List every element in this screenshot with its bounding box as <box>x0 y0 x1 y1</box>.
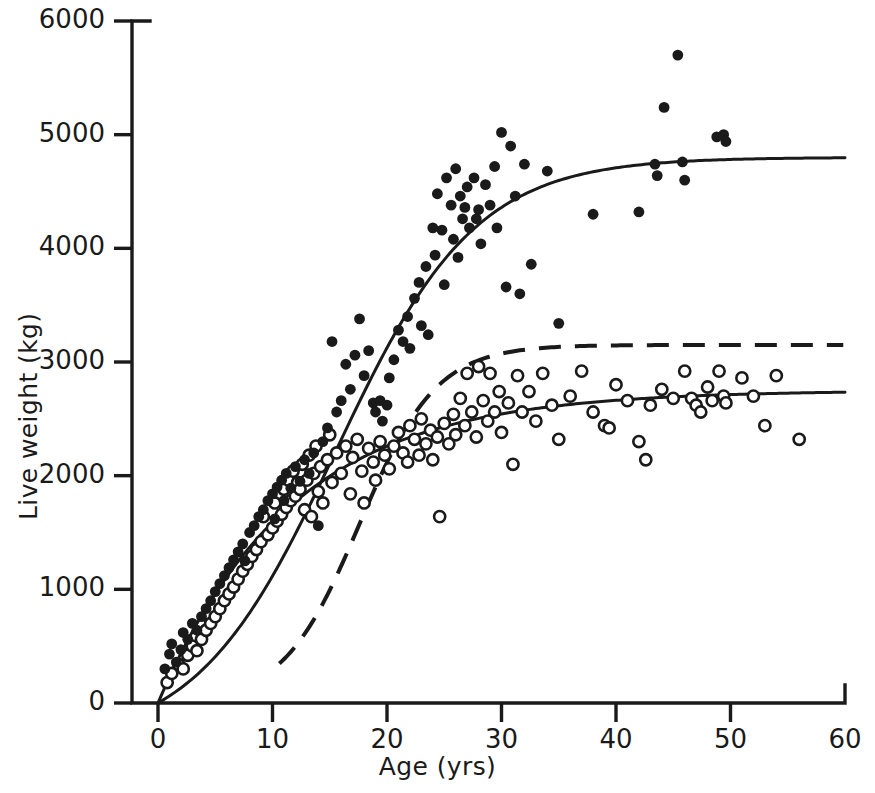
y-tick-label: 5000 <box>0 118 105 148</box>
data-point-male <box>462 182 473 193</box>
data-point-female <box>496 427 507 438</box>
data-point-male <box>437 225 448 236</box>
data-point-male <box>432 188 443 199</box>
data-point-female <box>413 450 424 461</box>
data-point-male <box>650 159 661 170</box>
data-point-female <box>427 454 438 465</box>
data-point-male <box>634 207 645 218</box>
x-tick-label: 40 <box>576 724 656 754</box>
data-point-female <box>588 406 599 417</box>
data-point-female <box>668 393 679 404</box>
data-point-female <box>404 420 415 431</box>
data-point-female <box>759 420 770 431</box>
data-point-female <box>478 395 489 406</box>
data-point-female <box>434 511 445 522</box>
data-point-female <box>393 427 404 438</box>
data-point-male <box>471 213 482 224</box>
y-tick-label: 3000 <box>0 345 105 375</box>
data-point-female <box>370 475 381 486</box>
data-point-female <box>679 365 690 376</box>
data-point-female <box>748 391 759 402</box>
data-point-female <box>604 422 615 433</box>
data-point-female <box>345 488 356 499</box>
data-point-male <box>542 166 553 177</box>
data-point-male <box>313 520 324 531</box>
data-point-male <box>489 161 500 172</box>
data-point-male <box>459 202 470 213</box>
data-point-female <box>553 434 564 445</box>
data-point-female <box>489 406 500 417</box>
y-tick-label: 4000 <box>0 231 105 261</box>
data-point-female <box>565 391 576 402</box>
data-point-female <box>375 436 386 447</box>
data-point-male <box>322 423 333 434</box>
data-point-female <box>306 511 317 522</box>
plot-canvas <box>0 0 875 793</box>
x-tick-label: 50 <box>691 724 771 754</box>
y-tick-label: 2000 <box>0 459 105 489</box>
data-point-female <box>702 381 713 392</box>
x-tick-label: 60 <box>805 724 875 754</box>
data-point-male <box>492 222 503 233</box>
data-point-male <box>363 345 374 356</box>
data-point-female <box>503 397 514 408</box>
data-point-male <box>308 448 319 459</box>
data-point-female <box>340 441 351 452</box>
data-point-female <box>610 379 621 390</box>
data-point-male <box>679 175 690 186</box>
data-point-male <box>402 311 413 322</box>
data-point-male <box>464 222 475 233</box>
data-point-male <box>350 350 361 361</box>
data-point-male <box>370 407 381 418</box>
data-point-female <box>530 416 541 427</box>
data-point-female <box>622 395 633 406</box>
data-point-female <box>379 450 390 461</box>
data-point-male <box>423 329 434 340</box>
data-point-male <box>409 293 420 304</box>
data-point-male <box>331 407 342 418</box>
axis-spine <box>132 21 845 703</box>
data-point-male <box>290 461 301 472</box>
figure-container: Live weight (kg) Age (yrs) 0100020003000… <box>0 0 875 793</box>
data-point-female <box>409 434 420 445</box>
data-point-female <box>336 468 347 479</box>
data-point-female <box>384 463 395 474</box>
data-point-male <box>480 179 491 190</box>
data-point-female <box>720 397 731 408</box>
data-point-male <box>721 136 732 147</box>
data-point-male <box>269 513 280 524</box>
data-point-male <box>393 325 404 336</box>
data-point-female <box>656 384 667 395</box>
y-axis-ticks <box>114 21 132 703</box>
data-point-female <box>484 368 495 379</box>
data-point-female <box>466 406 477 417</box>
data-point-male <box>455 191 466 202</box>
data-point-male <box>430 250 441 261</box>
data-point-male <box>501 282 512 293</box>
data-point-male <box>295 476 306 487</box>
data-point-male <box>453 252 464 263</box>
data-point-male <box>677 157 688 168</box>
data-point-female <box>546 400 557 411</box>
data-point-female <box>402 456 413 467</box>
data-point-male <box>416 320 427 331</box>
data-point-female <box>537 368 548 379</box>
data-point-female <box>494 386 505 397</box>
data-point-male <box>377 416 388 427</box>
data-point-female <box>576 365 587 376</box>
data-point-male <box>345 384 356 395</box>
data-point-male <box>166 638 177 649</box>
data-point-female <box>707 395 718 406</box>
data-point-female <box>462 368 473 379</box>
data-point-male <box>514 288 525 299</box>
data-point-male <box>240 556 251 567</box>
data-point-female <box>473 361 484 372</box>
data-point-male <box>384 373 395 384</box>
x-tick-label: 20 <box>347 724 427 754</box>
data-point-female <box>368 456 379 467</box>
data-point-female <box>517 406 528 417</box>
data-point-male <box>182 634 193 645</box>
data-point-male <box>519 159 530 170</box>
data-point-female <box>347 452 358 463</box>
data-point-female <box>512 370 523 381</box>
